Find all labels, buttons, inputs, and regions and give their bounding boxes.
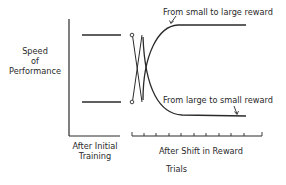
annotation-large-to-small: From large to small reward — [163, 95, 273, 105]
diagram-canvas — [0, 0, 286, 185]
curve-small-to-large — [143, 25, 246, 100]
phase-label-initial-training: After Initial Training — [66, 141, 124, 161]
y-label-line-2: of — [4, 56, 66, 66]
annotation-small-to-large: From small to large reward — [163, 7, 273, 17]
phase-initial-line-1: After Initial — [66, 141, 124, 151]
shift-point-lower — [130, 100, 134, 104]
shift-point-upper — [130, 33, 134, 37]
arrow-small-to-large — [171, 16, 176, 23]
y-axis-label: Speed of Performance — [4, 46, 66, 76]
phase-initial-line-2: Training — [66, 151, 124, 161]
y-label-line-3: Performance — [4, 66, 66, 76]
y-label-line-1: Speed — [4, 46, 66, 56]
x-axis-title: Trials — [166, 164, 187, 174]
phase-label-after-shift: After Shift in Reward — [159, 146, 243, 156]
